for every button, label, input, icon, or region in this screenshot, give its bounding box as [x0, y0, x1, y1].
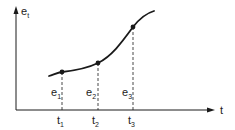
curve-diagram: et t e1 e2 e3 t1 t2 t3 [0, 0, 235, 130]
t1-label: t1 [57, 114, 64, 128]
t2-label: t2 [92, 114, 99, 128]
point-2 [96, 61, 101, 66]
e1-label: e1 [51, 86, 61, 100]
point-3 [131, 25, 136, 30]
y-axis-arrow-icon [14, 6, 19, 14]
curve [49, 11, 154, 76]
t3-label: t3 [128, 114, 135, 128]
e2-label: e2 [86, 86, 96, 100]
e3-label: e3 [122, 86, 132, 100]
x-axis-label: t [220, 104, 223, 116]
y-axis-label: et [21, 5, 29, 19]
point-1 [60, 70, 65, 75]
x-axis-arrow-icon [207, 108, 215, 113]
